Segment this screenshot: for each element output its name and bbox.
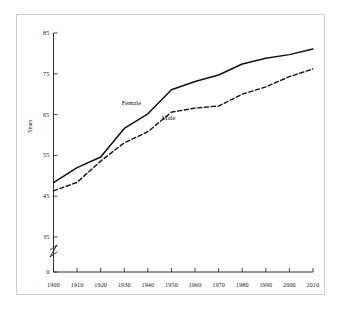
x-tick-label: 1980 <box>229 281 255 288</box>
x-tick-label: 1920 <box>88 281 114 288</box>
series-line-female <box>54 49 314 183</box>
x-tick-label: 2000 <box>276 281 302 288</box>
series-label-female: Female <box>122 99 141 106</box>
x-tick-label: 2010 <box>300 281 326 288</box>
y-tick-label: 55 <box>28 151 50 158</box>
y-tick-label: 85 <box>28 29 50 36</box>
x-tick-label: 1990 <box>253 281 279 288</box>
y-tick-label: 35 <box>28 233 50 240</box>
x-tick-label: 1910 <box>64 281 90 288</box>
x-tick-label: 1960 <box>182 281 208 288</box>
x-tick-label: 1950 <box>158 281 184 288</box>
x-axis-ticks <box>54 268 314 272</box>
y-tick-label: 75 <box>28 70 50 77</box>
x-tick-label: 1970 <box>206 281 232 288</box>
y-tick-label: 65 <box>28 111 50 118</box>
y-axis-title: Years <box>27 120 33 133</box>
series-line-male <box>54 69 314 191</box>
series-label-male: Male <box>162 114 176 121</box>
y-axis-ticks <box>54 33 58 272</box>
y-tick-label: 45 <box>28 192 50 199</box>
x-tick-label: 1940 <box>135 281 161 288</box>
chart-figure: Years 0354555657585 19001910192019301940… <box>0 0 343 313</box>
chart-plot-area <box>0 0 343 313</box>
x-tick-label: 1930 <box>111 281 137 288</box>
y-tick-label: 0 <box>28 268 50 275</box>
axis-lines <box>54 33 314 272</box>
x-tick-label: 1900 <box>41 281 67 288</box>
